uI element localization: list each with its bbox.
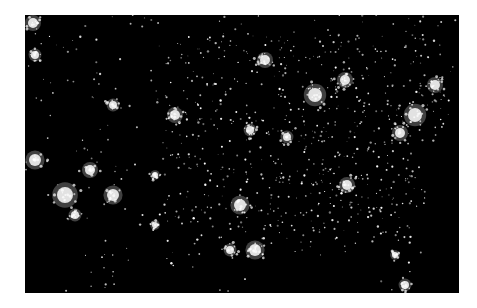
city-lights-layer [25, 15, 459, 293]
us-night-lights-photo [25, 15, 459, 293]
